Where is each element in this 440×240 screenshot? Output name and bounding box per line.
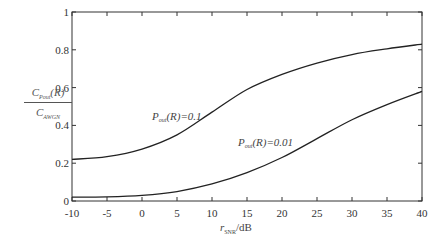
x-tick-label: 40 [417, 207, 429, 219]
x-axis-label: rSNR/dB [220, 221, 252, 235]
curves [72, 44, 422, 197]
x-tick-label: -5 [102, 207, 112, 219]
y-tick-label: 1 [64, 6, 70, 18]
y-tick-label: 0 [64, 195, 70, 207]
annotation-pout-0.01: Pout(R)=0.01 [237, 136, 293, 149]
y-label-numerator: CPout(R) [24, 86, 72, 103]
x-tick-label: 5 [174, 207, 180, 219]
annotation-pout-0.1: Pout(R)=0.1 [151, 110, 202, 123]
axis-ticks: -10-5051015202530354000.20.40.60.81 [55, 6, 428, 219]
x-tick-label: 20 [277, 207, 289, 219]
x-tick-label: 0 [139, 207, 145, 219]
x-tick-label: 25 [312, 207, 324, 219]
x-tick-label: 35 [382, 207, 394, 219]
y-axis-label: CPout(R) CAWGN [24, 86, 72, 120]
x-tick-label: -10 [65, 207, 80, 219]
x-tick-label: 10 [207, 207, 219, 219]
y-tick-label: 0.8 [55, 44, 69, 56]
x-tick-label: 30 [347, 207, 359, 219]
y-label-denominator: CAWGN [24, 103, 72, 120]
y-tick-label: 0.4 [55, 119, 69, 131]
y-tick-label: 0.2 [55, 157, 69, 169]
x-tick-label: 15 [242, 207, 254, 219]
